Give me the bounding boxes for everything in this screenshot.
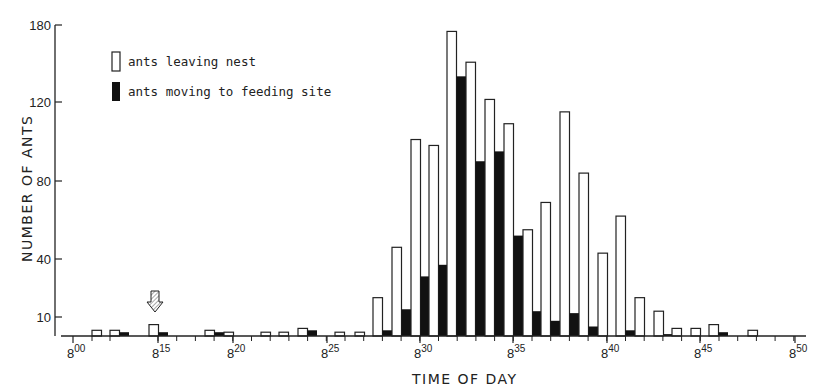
bar-leaving-nest — [205, 330, 215, 336]
legend: ants leaving nest ants moving to feeding… — [112, 52, 331, 101]
y-tick-label: 10 — [37, 310, 51, 325]
y-axis-title: NUMBER OF ANTS — [19, 115, 35, 262]
y-tick-label: 180 — [29, 18, 51, 33]
legend-label-leaving-nest: ants leaving nest — [128, 54, 256, 69]
bar-leaving-nest — [429, 145, 439, 336]
bar-leaving-nest — [560, 112, 570, 336]
bar-leaving-nest — [523, 230, 533, 336]
bar-leaving-nest — [579, 173, 589, 336]
legend-swatch-black — [112, 82, 120, 101]
y-tick-label: 120 — [29, 95, 51, 110]
bar-leaving-nest — [691, 328, 701, 336]
x-tick-label: 820 — [227, 343, 246, 361]
bar-leaving-nest — [616, 216, 626, 336]
bar-chart: 104080120180 800815820825830835840845850… — [0, 0, 821, 392]
x-tick-label: 845 — [694, 343, 713, 361]
bar-leaving-nest — [635, 298, 645, 336]
x-ticks: 800815820825830835840845850 — [67, 336, 808, 361]
x-tick-label: 825 — [321, 343, 340, 361]
bar-feeding-site — [476, 161, 486, 336]
bar-leaving-nest — [485, 99, 495, 336]
bar-leaving-nest — [504, 124, 514, 336]
bar-leaving-nest — [447, 31, 457, 336]
x-tick-label: 830 — [414, 343, 433, 361]
bar-feeding-site — [626, 330, 636, 336]
bar-feeding-site — [551, 321, 561, 336]
arrow-down-icon — [147, 291, 163, 312]
x-tick-label: 800 — [67, 343, 86, 361]
bar-leaving-nest — [411, 140, 421, 336]
x-tick-label: 815 — [152, 343, 171, 361]
bar-feeding-site — [457, 76, 467, 336]
bar-leaving-nest — [92, 330, 102, 336]
bar-leaving-nest — [654, 311, 664, 336]
legend-swatch-white — [112, 52, 120, 71]
y-tick-label: 40 — [37, 252, 51, 267]
x-tick-label: 835 — [507, 343, 526, 361]
bar-leaving-nest — [748, 330, 758, 336]
bar-feeding-site — [514, 236, 524, 336]
bar-feeding-site — [383, 330, 393, 336]
bar-feeding-site — [589, 327, 599, 337]
bar-leaving-nest — [298, 328, 308, 336]
bar-leaving-nest — [110, 330, 120, 336]
bar-leaving-nest — [392, 247, 402, 336]
bar-leaving-nest — [466, 62, 476, 336]
bar-feeding-site — [308, 330, 318, 336]
x-tick-label: 840 — [601, 343, 620, 361]
y-tick-label: 80 — [37, 174, 51, 189]
bar-leaving-nest — [598, 253, 608, 336]
legend-label-feeding-site: ants moving to feeding site — [128, 84, 331, 99]
x-tick-label: 850 — [789, 343, 808, 361]
bar-leaving-nest — [149, 325, 159, 336]
bar-feeding-site — [402, 309, 412, 336]
bar-feeding-site — [495, 151, 505, 336]
bar-leaving-nest — [672, 328, 682, 336]
bar-leaving-nest — [373, 298, 383, 336]
x-axis-title: TIME OF DAY — [411, 371, 518, 387]
bar-leaving-nest — [709, 325, 719, 336]
bar-leaving-nest — [541, 202, 551, 336]
x-minor-ticks — [92, 336, 794, 341]
bars-group — [92, 31, 758, 336]
bar-feeding-site — [570, 313, 580, 336]
